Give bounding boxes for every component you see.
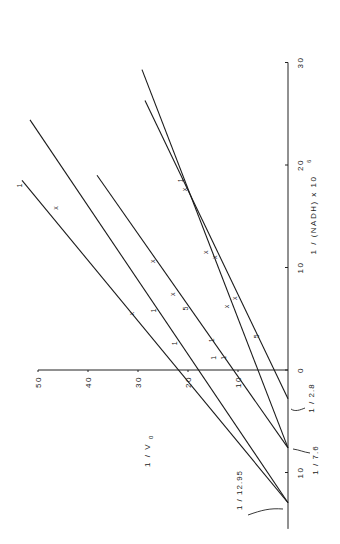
plot-lines bbox=[22, 70, 288, 503]
line-3 bbox=[97, 175, 288, 448]
svg-text:x: x bbox=[128, 311, 135, 315]
svg-text:10: 10 bbox=[296, 262, 305, 274]
line-1 bbox=[22, 180, 288, 502]
axes bbox=[38, 63, 288, 529]
data-point-marker: 1 bbox=[177, 178, 184, 182]
svg-text:1 / 2.8: 1 / 2.8 bbox=[307, 383, 316, 412]
data-point-marker: x bbox=[181, 187, 188, 191]
annotation-1-2-8: 1 / 2.8 bbox=[307, 383, 316, 412]
data-point-marker: 5 bbox=[182, 306, 189, 310]
y-axis-subscript: 0 bbox=[148, 435, 154, 439]
data-point-marker: x bbox=[223, 304, 230, 308]
svg-text:1: 1 bbox=[208, 338, 215, 342]
tick-labels: 0102030101020304050 bbox=[34, 57, 305, 479]
annotation-arrow-7-6 bbox=[293, 449, 310, 453]
svg-text:x: x bbox=[181, 187, 188, 191]
data-point-marker: 1 bbox=[171, 341, 178, 345]
data-point-marker: 1 bbox=[16, 183, 23, 187]
svg-text:1 / 7.6: 1 / 7.6 bbox=[311, 445, 320, 474]
data-point-marker: x bbox=[231, 296, 238, 300]
line-2 bbox=[30, 120, 288, 503]
x-tick-label: 20 bbox=[296, 159, 305, 171]
data-point-marker: x bbox=[202, 250, 209, 254]
x-axis-exponent: 6 bbox=[306, 159, 312, 163]
svg-text:x: x bbox=[149, 259, 156, 263]
x-tick-label: 10 bbox=[296, 467, 305, 479]
data-point-marker: x bbox=[211, 255, 218, 259]
lineweaver-burk-chart: 111xx1xx111xxxxx55 0102030101020304050 1… bbox=[0, 0, 340, 544]
data-point-marker: 1 bbox=[220, 356, 227, 360]
data-point-marker: 1 bbox=[150, 309, 157, 313]
svg-text:1: 1 bbox=[220, 356, 227, 360]
data-point-marker: x bbox=[128, 311, 135, 315]
annotation-1-12-95: 1 / 12.95 bbox=[235, 470, 244, 510]
y-tick-label: 40 bbox=[84, 376, 93, 388]
line-5 bbox=[145, 100, 288, 398]
y-axis-label: 1 / V bbox=[143, 443, 152, 467]
y-tick-label: 30 bbox=[134, 376, 143, 388]
data-point-marker: x bbox=[149, 259, 156, 263]
svg-text:x: x bbox=[211, 255, 218, 259]
y-tick-label: 50 bbox=[34, 376, 43, 388]
y-axis-title: 1 / V 0 bbox=[143, 435, 154, 467]
svg-text:20: 20 bbox=[184, 376, 193, 388]
data-point-marker: 1 bbox=[208, 338, 215, 342]
x-tick-label: 10 bbox=[296, 262, 305, 274]
svg-text:20: 20 bbox=[296, 159, 305, 171]
data-markers: 111xx1xx111xxxxx55 bbox=[16, 178, 260, 359]
svg-text:x: x bbox=[169, 292, 176, 296]
x-axis-label: 1 / (NADH) x 10 bbox=[309, 176, 318, 255]
data-point-marker: 1 bbox=[210, 356, 217, 360]
svg-text:x: x bbox=[202, 250, 209, 254]
svg-text:1: 1 bbox=[171, 341, 178, 345]
x-axis-title: 1 / (NADH) x 10 6 bbox=[306, 159, 318, 254]
svg-text:5: 5 bbox=[253, 334, 260, 338]
data-point-marker: x bbox=[52, 206, 59, 210]
svg-text:10: 10 bbox=[234, 376, 243, 388]
annotation-1-7-6: 1 / 7.6 bbox=[311, 445, 320, 474]
svg-text:1: 1 bbox=[210, 356, 217, 360]
svg-text:x: x bbox=[52, 206, 59, 210]
svg-text:30: 30 bbox=[296, 57, 305, 69]
data-point-marker: 5 bbox=[253, 334, 260, 338]
svg-text:x: x bbox=[223, 304, 230, 308]
y-tick-label: 20 bbox=[184, 376, 193, 388]
svg-text:1: 1 bbox=[177, 178, 184, 182]
svg-text:1: 1 bbox=[150, 309, 157, 313]
svg-text:1: 1 bbox=[16, 183, 23, 187]
annotation-arrow-2-8 bbox=[291, 408, 305, 411]
svg-text:5: 5 bbox=[182, 306, 189, 310]
x-tick-label: 30 bbox=[296, 57, 305, 69]
svg-text:10: 10 bbox=[296, 467, 305, 479]
y-tick-label: 10 bbox=[234, 376, 243, 388]
svg-text:50: 50 bbox=[34, 376, 43, 388]
annotation-arrow-12-95 bbox=[248, 509, 283, 515]
svg-text:1 / 12.95: 1 / 12.95 bbox=[235, 470, 244, 510]
svg-text:40: 40 bbox=[84, 376, 93, 388]
svg-text:x: x bbox=[231, 296, 238, 300]
x-tick-label: 0 bbox=[296, 367, 305, 373]
data-point-marker: x bbox=[169, 292, 176, 296]
svg-text:30: 30 bbox=[134, 376, 143, 388]
svg-text:0: 0 bbox=[296, 367, 305, 373]
